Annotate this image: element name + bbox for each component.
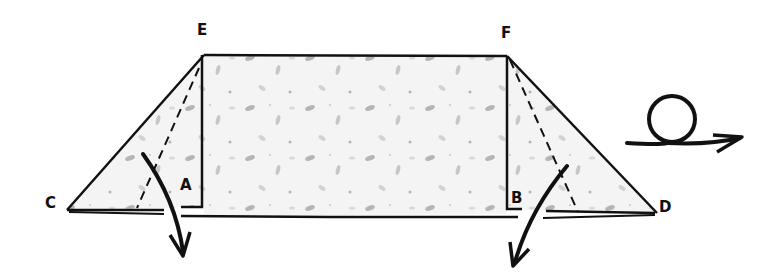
label-b: B: [511, 191, 522, 206]
label-f: F: [501, 26, 511, 41]
label-a: A: [180, 178, 192, 193]
label-d: D: [659, 200, 671, 215]
top-edge: [204, 55, 507, 56]
turn-over-icon: [627, 96, 742, 152]
label-e: E: [197, 23, 207, 38]
diagram-canvas: [0, 0, 784, 275]
right-flap: [507, 56, 657, 218]
label-c: C: [45, 196, 56, 211]
origami-diagram: E F C D A B: [0, 0, 784, 275]
bottom-edge: [181, 216, 518, 217]
paper-center-rect: [204, 55, 507, 216]
